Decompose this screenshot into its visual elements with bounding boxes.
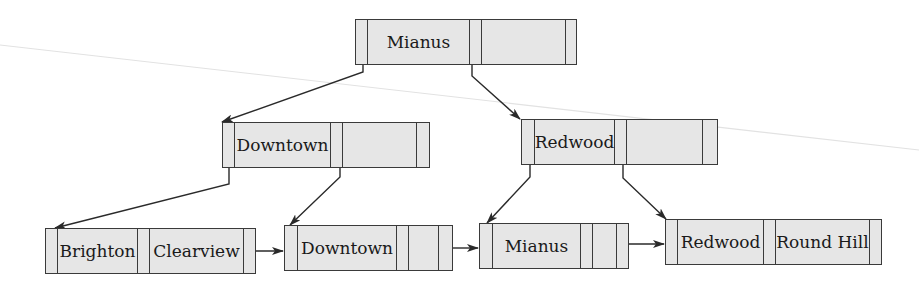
node-pointer-slot xyxy=(764,220,776,264)
node-key: Downtown xyxy=(235,123,331,167)
node-pointer-slot xyxy=(244,229,255,273)
node-pointer-slot xyxy=(397,226,409,270)
node-pointer-slot xyxy=(666,220,678,264)
node-key: Mianus xyxy=(368,20,470,64)
node-pointer-slot xyxy=(470,20,482,64)
node-pointer-slot xyxy=(417,123,429,167)
internal-node-downtown: Downtown xyxy=(222,122,430,168)
node-pointer-slot xyxy=(331,123,343,167)
child-pointer-arrow xyxy=(55,168,229,228)
node-key: Downtown xyxy=(298,226,397,270)
node-key: Redwood xyxy=(535,120,615,164)
leaf-node-mianus: Mianus xyxy=(479,223,629,269)
node-pointer-slot xyxy=(703,120,717,164)
leaf-node-downtown: Downtown xyxy=(284,225,453,271)
node-pointer-slot xyxy=(522,120,535,164)
node-pointer-slot xyxy=(46,229,58,273)
node-pointer-slot xyxy=(581,224,593,268)
node-key: Brighton xyxy=(58,229,138,273)
node-pointer-slot xyxy=(285,226,298,270)
child-pointer-arrow xyxy=(623,165,666,219)
node-pointer-slot xyxy=(566,20,576,64)
root-node: Mianus xyxy=(355,19,577,65)
child-pointer-arrow xyxy=(487,165,530,223)
node-pointer-slot xyxy=(615,120,627,164)
child-pointer-arrow xyxy=(290,168,340,225)
child-pointer-arrow xyxy=(472,65,520,119)
internal-node-redwood: Redwood xyxy=(521,119,718,165)
leaf-node-brighton-clearview: BrightonClearview xyxy=(45,228,256,274)
node-key-empty xyxy=(482,20,566,64)
node-pointer-slot xyxy=(223,123,235,167)
node-key-empty xyxy=(627,120,703,164)
node-pointer-slot xyxy=(870,220,881,264)
node-key: Mianus xyxy=(493,224,581,268)
node-pointer-slot xyxy=(356,20,368,64)
node-key-empty xyxy=(409,226,439,270)
node-key-empty xyxy=(593,224,617,268)
node-pointer-slot xyxy=(138,229,150,273)
node-key: Round Hill xyxy=(776,220,870,264)
node-pointer-slot xyxy=(480,224,493,268)
node-key-empty xyxy=(343,123,417,167)
node-key: Redwood xyxy=(678,220,764,264)
node-pointer-slot xyxy=(617,224,628,268)
node-key: Clearview xyxy=(150,229,244,273)
node-pointer-slot xyxy=(439,226,452,270)
child-pointer-arrow xyxy=(222,65,363,122)
b-plus-tree-diagram: Mianus Downtown Redwood BrightonClearvie… xyxy=(0,0,919,285)
leaf-node-redwood-roundhill: RedwoodRound Hill xyxy=(665,219,882,265)
